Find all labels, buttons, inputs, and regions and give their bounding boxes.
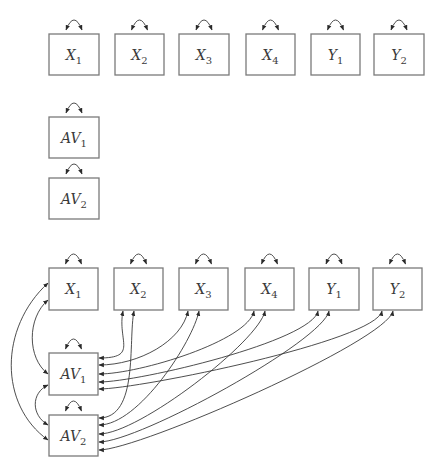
variance-arrow-av2 — [66, 164, 82, 174]
node-x1: X1 — [49, 34, 99, 75]
variance-arrow-x2 — [131, 254, 147, 264]
covariance-arrow-x2-av1 — [99, 311, 124, 358]
variance-arrow-x1 — [66, 20, 82, 30]
variance-arrow-y2 — [391, 20, 407, 30]
covariance-arrow-x1-av2 — [11, 283, 48, 440]
covariance-arrow-y2-av1 — [99, 311, 382, 389]
node-x2: X2 — [114, 268, 163, 310]
node-y2: Y2 — [373, 268, 422, 310]
node-x3: X3 — [179, 34, 229, 75]
node-x4: X4 — [246, 34, 295, 75]
variance-arrow-x3 — [196, 20, 212, 30]
covariance-arrow-x1-av1 — [32, 300, 48, 374]
bottom-model: X1X2X3X4Y1Y2AV1AV2 — [11, 254, 422, 456]
node-av1: AV1 — [49, 117, 99, 158]
node-av2: AV2 — [49, 178, 99, 219]
top-model: X1X2X3X4Y1Y2AV1AV2 — [49, 20, 424, 219]
variance-arrow-y1 — [328, 20, 344, 30]
node-y2: Y2 — [374, 34, 424, 75]
path-diagram: X1X2X3X4Y1Y2AV1AV2 X1X2X3X4Y1Y2AV1AV2 — [0, 0, 432, 463]
node-y1: Y1 — [311, 34, 360, 75]
variance-arrow-y1 — [326, 254, 342, 264]
variance-arrow-av1 — [66, 339, 82, 349]
node-av1: AV1 — [49, 353, 98, 395]
covariance-arrow-x4-av2 — [99, 311, 265, 434]
variance-arrow-y2 — [390, 254, 406, 264]
variance-arrow-av2 — [66, 401, 82, 411]
node-av2: AV2 — [49, 415, 98, 456]
node-x2: X2 — [115, 34, 164, 75]
node-y1: Y1 — [309, 268, 359, 310]
variance-arrow-x2 — [132, 20, 148, 30]
node-x3: X3 — [179, 268, 228, 310]
variance-arrow-av1 — [66, 103, 82, 113]
covariance-arrow-av1-av2 — [35, 385, 48, 425]
variance-arrow-x4 — [262, 254, 278, 264]
variance-arrow-x3 — [196, 254, 212, 264]
node-x4: X4 — [245, 268, 294, 310]
variance-arrow-x4 — [263, 20, 279, 30]
variance-arrow-x1 — [66, 254, 82, 264]
node-x1: X1 — [49, 268, 98, 310]
